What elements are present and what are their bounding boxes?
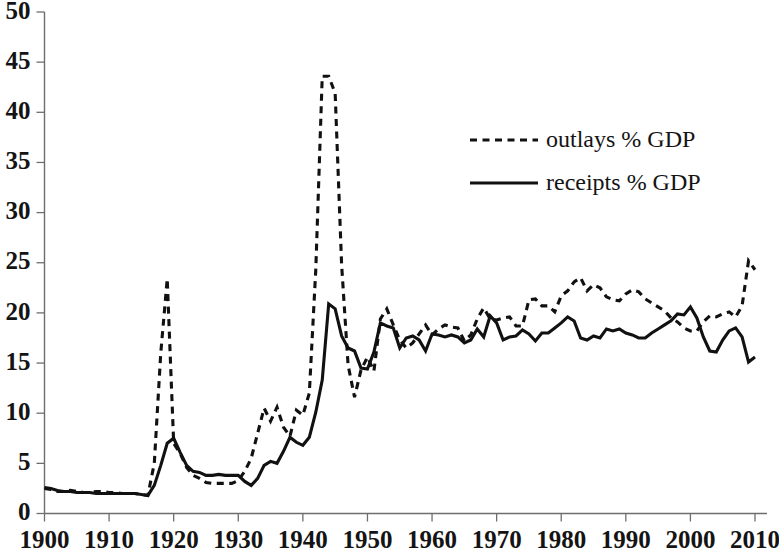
y-tick-label: 20	[6, 298, 31, 325]
chart-container: 05101520253035404550 1900191019201930194…	[0, 0, 779, 557]
x-tick-label: 2010	[730, 526, 779, 553]
x-tick-label: 1970	[472, 526, 522, 553]
chart-background	[0, 0, 779, 557]
y-tick-label: 25	[6, 247, 31, 274]
x-tick-label: 1960	[407, 526, 457, 553]
y-tick-label: 45	[6, 47, 31, 74]
y-tick-label: 35	[6, 147, 31, 174]
y-tick-label: 5	[18, 448, 31, 475]
y-tick-label: 15	[6, 348, 31, 375]
y-tick-label: 40	[6, 97, 31, 124]
y-tick-label: 50	[6, 0, 31, 24]
x-tick-label: 1980	[536, 526, 586, 553]
line-chart: 05101520253035404550 1900191019201930194…	[0, 0, 779, 557]
x-tick-label: 2000	[665, 526, 715, 553]
y-tick-label: 0	[18, 498, 31, 525]
x-tick-label: 1950	[342, 526, 392, 553]
x-tick-label: 1910	[84, 526, 134, 553]
y-tick-label: 30	[6, 197, 31, 224]
x-tick-label: 1920	[149, 526, 199, 553]
legend-label-receipts: receipts % GDP	[546, 169, 701, 195]
legend-label-outlays: outlays % GDP	[546, 126, 695, 152]
x-tick-label: 1900	[20, 526, 70, 553]
x-tick-label: 1940	[278, 526, 328, 553]
x-tick-label: 1930	[213, 526, 263, 553]
x-tick-label: 1990	[601, 526, 651, 553]
y-tick-label: 10	[6, 398, 31, 425]
